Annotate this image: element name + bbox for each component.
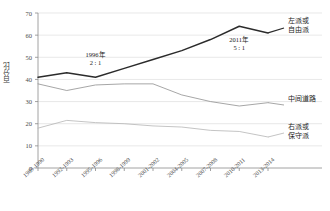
- legend-label-line1: 中间道路: [288, 95, 316, 104]
- series-line-1: [38, 84, 268, 106]
- gridlines-group: [38, 13, 322, 146]
- legend-label-line2: 保守派: [288, 132, 309, 141]
- chart-plot-area: [0, 0, 330, 211]
- legend-label-line1: 右派或: [288, 123, 309, 132]
- annotation-year: 1996年: [71, 51, 121, 59]
- legend-leader-line-0: [268, 28, 284, 33]
- legend-label-line1: 左派或: [288, 17, 309, 26]
- legend-leader-lines-group: [268, 28, 284, 137]
- y-tick-label: 40: [16, 76, 32, 83]
- y-tick-marks-group: [35, 13, 38, 168]
- legend-label-line2: 自由派: [288, 26, 309, 35]
- annotation-ratio: 5 : 1: [214, 44, 264, 52]
- legend-leader-line-2: [268, 133, 284, 137]
- y-tick-label: 10: [16, 142, 32, 149]
- y-tick-label: 60: [16, 32, 32, 39]
- legend-label-2[interactable]: 右派或保守派: [288, 123, 309, 141]
- legend-label-0[interactable]: 左派或自由派: [288, 17, 309, 35]
- line-chart: 百分比 706050403020100 1989-19901992-199319…: [0, 0, 330, 211]
- annotation-year: 2011年: [214, 36, 264, 44]
- y-tick-label: 70: [16, 10, 32, 17]
- legend-leader-line-1: [268, 103, 284, 105]
- annotation-ratio: 2 : 1: [71, 59, 121, 67]
- axis-lines-group: [38, 13, 322, 168]
- y-tick-label: 20: [16, 120, 32, 127]
- series-line-2: [38, 120, 268, 137]
- y-tick-label: 50: [16, 54, 32, 61]
- annotation-0: 1996年2 : 1: [71, 51, 121, 67]
- legend-label-1[interactable]: 中间道路: [288, 95, 316, 104]
- annotation-1: 2011年5 : 1: [214, 36, 264, 52]
- y-axis-title: 百分比: [2, 62, 12, 83]
- y-tick-label: 30: [16, 98, 32, 105]
